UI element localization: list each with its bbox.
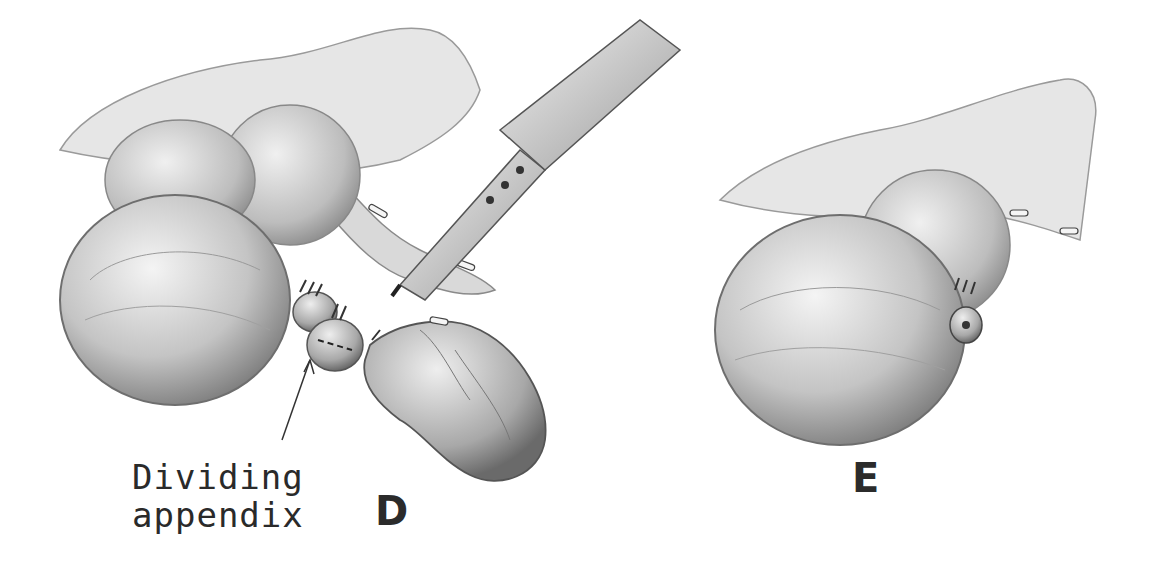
panel-d-drawing	[60, 20, 680, 481]
annotation-line-1: Dividing	[132, 458, 304, 496]
panel-e-drawing	[715, 79, 1096, 445]
panel-letter-d: D	[375, 488, 408, 534]
annotation-line-2: appendix	[132, 496, 304, 534]
panel-letter-e: E	[852, 455, 879, 501]
figure-canvas: Dividing appendix D E	[0, 0, 1151, 569]
annotation-label: Dividing appendix	[132, 458, 304, 534]
